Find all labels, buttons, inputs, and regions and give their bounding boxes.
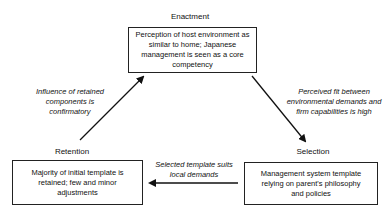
selection-to-retention-note: Selected template suits local demands <box>150 160 238 180</box>
retention-to-enactment-note: Influence of retained components is conf… <box>28 87 112 117</box>
retention-label: Retention <box>42 147 102 156</box>
selection-box: Management system template relying on pa… <box>244 162 378 205</box>
selection-label: Selection <box>283 147 343 156</box>
retention-box: Majority of initial template is retained… <box>12 160 143 205</box>
enactment-box: Perception of host environment as simila… <box>128 27 257 73</box>
enactment-label: Enactment <box>160 12 220 21</box>
enactment-to-selection-note: Perceived fit between environmental dema… <box>281 87 387 117</box>
